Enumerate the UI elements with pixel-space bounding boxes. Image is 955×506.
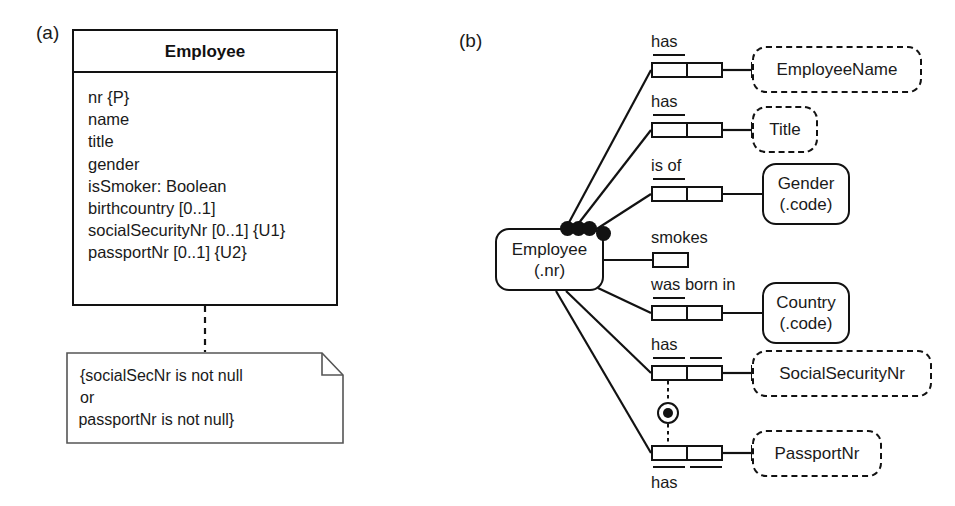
uniqueness-bar bbox=[653, 54, 685, 56]
uniqueness-bar bbox=[653, 466, 685, 468]
mandatory-role-dot bbox=[596, 226, 611, 241]
panel-b-label: (b) bbox=[459, 30, 482, 52]
orm-predicate-has-employeename[interactable] bbox=[651, 62, 723, 78]
uml-attribute: nr {P} bbox=[88, 86, 336, 108]
role-line-country bbox=[598, 288, 651, 313]
predicate-label-has-title: has bbox=[651, 92, 678, 110]
predicate-label-was-born-in: was born in bbox=[651, 275, 735, 293]
orm-predicate-has-passportnr[interactable] bbox=[651, 445, 723, 461]
panel-a-label: (a) bbox=[36, 22, 59, 44]
orm-value-name: PassportNr bbox=[774, 443, 859, 464]
uml-class-box-employee[interactable]: Employee nr {P} name title gender isSmok… bbox=[72, 29, 338, 306]
orm-entity-country[interactable]: Country (.code) bbox=[762, 282, 850, 344]
role-line-employeename bbox=[566, 70, 651, 228]
uml-attribute-compartment: nr {P} name title gender isSmoker: Boole… bbox=[74, 74, 336, 304]
orm-value-employeename[interactable]: EmployeeName bbox=[752, 46, 922, 93]
orm-value-passportnr[interactable]: PassportNr bbox=[752, 430, 882, 477]
uniqueness-bar bbox=[690, 466, 722, 468]
predicate-label-has-passportnr: has bbox=[651, 473, 678, 491]
uml-attribute: socialSecurityNr [0..1] {U1} bbox=[88, 219, 336, 241]
orm-role[interactable] bbox=[653, 124, 688, 136]
uml-attribute: title bbox=[88, 130, 336, 152]
uml-note-line: or bbox=[80, 387, 94, 409]
orm-entity-name: Employee bbox=[512, 239, 588, 260]
orm-value-name: Title bbox=[769, 119, 801, 140]
role-line-title bbox=[575, 130, 651, 228]
uml-attribute: isSmoker: Boolean bbox=[88, 175, 336, 197]
uml-note-line: {socialSecNr is not null bbox=[80, 365, 243, 387]
uml-note-box[interactable]: {socialSecNr is not null or passportNr i… bbox=[66, 352, 344, 444]
role-line-passportnr bbox=[556, 291, 651, 453]
orm-role[interactable] bbox=[653, 367, 688, 379]
uniqueness-bar bbox=[653, 297, 685, 299]
orm-predicate-smokes[interactable] bbox=[652, 252, 689, 268]
uml-attribute: passportNr [0..1] {U2} bbox=[88, 241, 336, 263]
orm-role[interactable] bbox=[653, 64, 688, 76]
orm-role[interactable] bbox=[688, 307, 721, 319]
orm-entity-refmode: (.nr) bbox=[534, 260, 565, 281]
orm-role[interactable] bbox=[654, 254, 687, 266]
uniqueness-bar bbox=[653, 357, 685, 359]
predicate-label-is-of-gender: is of bbox=[651, 156, 681, 174]
orm-predicate-is-of-gender[interactable] bbox=[651, 186, 723, 202]
orm-value-name: EmployeeName bbox=[777, 59, 898, 80]
predicate-label-has-socialsecuritynr: has bbox=[651, 335, 678, 353]
orm-role[interactable] bbox=[688, 367, 721, 379]
orm-predicate-was-born-in-country[interactable] bbox=[651, 305, 723, 321]
orm-role[interactable] bbox=[653, 307, 688, 319]
uml-attribute: name bbox=[88, 108, 336, 130]
inclusive-or-constraint[interactable] bbox=[657, 402, 679, 424]
orm-role[interactable] bbox=[688, 64, 721, 76]
predicate-label-has-employeename: has bbox=[651, 32, 678, 50]
role-line-socialsecuritynr bbox=[566, 291, 651, 373]
orm-entity-name: Country bbox=[776, 292, 836, 313]
orm-role[interactable] bbox=[688, 188, 721, 200]
orm-predicate-has-title[interactable] bbox=[651, 122, 723, 138]
predicate-label-smokes: smokes bbox=[651, 228, 708, 246]
uml-note-line: passportNr is not null} bbox=[74, 409, 234, 431]
orm-entity-name: Gender bbox=[778, 173, 835, 194]
orm-entity-employee[interactable]: Employee (.nr) bbox=[495, 228, 604, 291]
orm-entity-gender[interactable]: Gender (.code) bbox=[762, 163, 850, 225]
figure-canvas: (a) (b) Employee nr {P} name title gende… bbox=[0, 0, 955, 506]
orm-entity-refmode: (.code) bbox=[780, 313, 833, 334]
orm-value-title[interactable]: Title bbox=[752, 106, 818, 153]
mandatory-role-dot bbox=[582, 221, 597, 236]
uml-attribute: gender bbox=[88, 153, 336, 175]
orm-predicate-has-socialsecuritynr[interactable] bbox=[651, 365, 723, 381]
orm-role[interactable] bbox=[688, 447, 721, 459]
inclusive-or-dot bbox=[663, 408, 673, 418]
uml-attribute: birthcountry [0..1] bbox=[88, 197, 336, 219]
orm-role[interactable] bbox=[688, 124, 721, 136]
uniqueness-bar bbox=[653, 178, 685, 180]
uml-class-name: Employee bbox=[74, 31, 336, 73]
orm-value-name: SocialSecurityNr bbox=[779, 363, 905, 384]
orm-value-socialsecuritynr[interactable]: SocialSecurityNr bbox=[752, 350, 932, 397]
uniqueness-bar bbox=[690, 357, 722, 359]
uniqueness-bar bbox=[653, 114, 685, 116]
orm-role[interactable] bbox=[653, 188, 688, 200]
orm-entity-refmode: (.code) bbox=[780, 194, 833, 215]
orm-role[interactable] bbox=[653, 447, 688, 459]
